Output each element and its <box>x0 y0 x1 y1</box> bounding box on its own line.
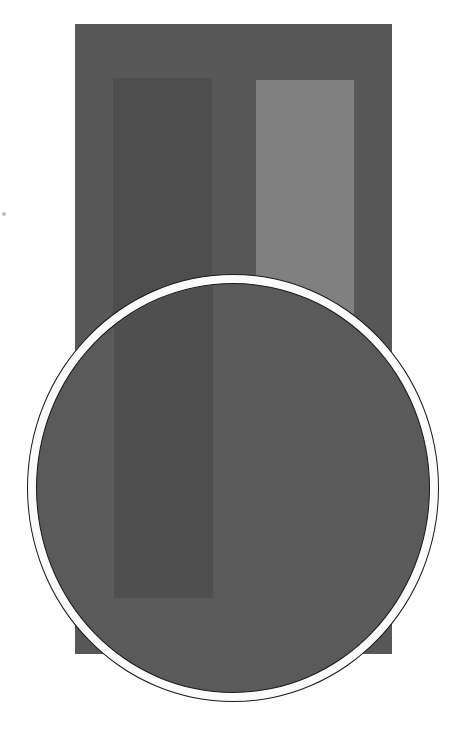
speck-mark <box>2 212 6 216</box>
lens-left-patch <box>114 283 213 598</box>
lens-view <box>36 283 430 693</box>
